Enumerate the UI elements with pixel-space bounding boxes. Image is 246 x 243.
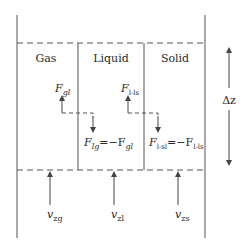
- force-gl-label: Fgl: [54, 82, 71, 97]
- velocity-liquid-label: vzl: [111, 208, 124, 223]
- phase-label-liquid: Liquid: [93, 52, 129, 65]
- force-l-ls-connector: [128, 113, 158, 118]
- force-lg-label: Flg=−Fgl: [83, 136, 134, 151]
- force-l-ls-label: Fl-ls: [120, 82, 139, 97]
- phase-control-volume-diagram: Gas Liquid Solid Fgl Flg=−Fgl Fl-ls Fl-s…: [0, 0, 246, 243]
- force-l-sl-label: Fl-sl=−Fl-ls: [148, 136, 204, 151]
- velocity-solid-label: vzs: [175, 208, 190, 223]
- velocity-gas-label: vzg: [47, 208, 63, 223]
- phase-label-gas: Gas: [36, 52, 57, 65]
- delta-z-label: Δz: [222, 94, 236, 107]
- phase-label-solid: Solid: [161, 52, 189, 65]
